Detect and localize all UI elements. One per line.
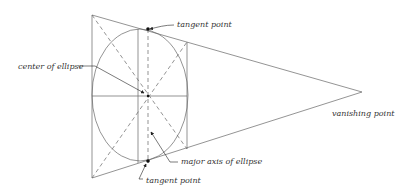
perspective-ellipse-diagram: tangent point center of ellipse vanishin… xyxy=(0,0,396,193)
leader-tangent-top xyxy=(150,25,174,29)
diagonal-dashed-2 xyxy=(92,42,187,178)
center-dot xyxy=(147,95,149,97)
tangent-point-bottom-dot xyxy=(146,159,150,163)
diagonal-dashed-1 xyxy=(92,15,187,149)
tangent-point-top-dot xyxy=(146,27,150,31)
label-tangent-point-top: tangent point xyxy=(177,20,233,29)
label-tangent-point-bottom: tangent point xyxy=(146,176,202,185)
ellipse xyxy=(92,29,188,161)
label-major-axis: major axis of ellipse xyxy=(181,157,262,166)
label-vanishing-point: vanishing point xyxy=(332,109,395,118)
label-center-of-ellipse: center of ellipse xyxy=(18,62,84,71)
leader-center xyxy=(78,66,144,93)
leader-tangent-bottom xyxy=(139,164,146,179)
